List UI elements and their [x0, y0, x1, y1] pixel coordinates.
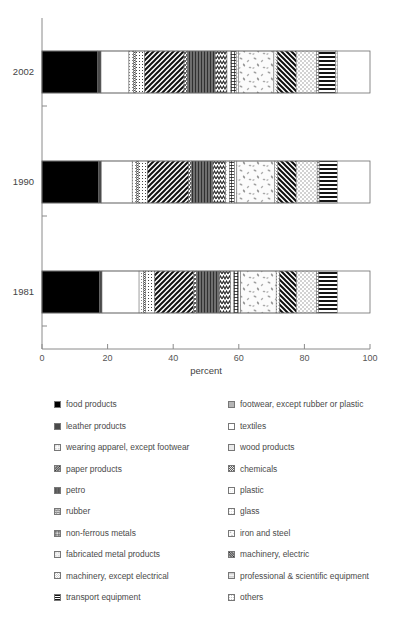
legend-label: chemicals	[240, 465, 277, 473]
bar-segment-transport	[319, 51, 336, 93]
legend-label: wood products	[240, 443, 294, 451]
legend-swatch-machelec-icon	[228, 551, 235, 558]
legend-item-wood[interactable]: wood products	[228, 437, 404, 458]
bar-segment-glass	[236, 51, 238, 93]
legend-swatch-ironsteel-icon	[228, 530, 235, 537]
year-label-2002: 2002	[13, 66, 34, 77]
legend-swatch-prof-icon	[228, 572, 235, 579]
legend-label: transport equipment	[66, 593, 141, 601]
bar-segment-apparel	[139, 271, 143, 313]
chart-svg: 020406080100 200219901981 percent	[0, 0, 404, 380]
x-tick-label: 0	[39, 353, 44, 363]
bar-segment-nonferrous	[229, 161, 234, 203]
bar-segment-plastic	[227, 51, 231, 93]
bar-segment-ironsteel	[241, 271, 276, 313]
x-tick-label: 20	[103, 353, 113, 363]
legend-item-transport[interactable]: transport equipment	[54, 587, 224, 608]
bar-segment-textiles	[102, 271, 139, 313]
legend-item-plastic[interactable]: plastic	[228, 480, 404, 501]
legend-item-others[interactable]: others	[228, 587, 404, 608]
bar-segment-leather	[98, 51, 101, 93]
legend-label: food products	[66, 400, 117, 408]
legend-label: paper products	[66, 465, 122, 473]
legend-swatch-wood-icon	[228, 444, 235, 451]
chart-legend: food productsfootwear, except rubber or …	[0, 386, 404, 618]
bar-segment-paper	[148, 161, 189, 203]
bar-segment-leather	[99, 161, 102, 203]
legend-label: machinery, except electrical	[66, 572, 169, 580]
bar-segment-petro	[196, 271, 219, 313]
bar-group	[42, 51, 370, 313]
legend-item-leather[interactable]: leather products	[54, 415, 224, 436]
bar-segment-fabmetal	[274, 51, 277, 93]
chart-page: 020406080100 200219901981 percent food p…	[0, 0, 404, 618]
legend-label: plastic	[240, 486, 264, 494]
legend-item-prof[interactable]: professional & scientific equipment	[228, 565, 404, 586]
legend-item-footwear[interactable]: footwear, except rubber or plastic	[228, 394, 404, 415]
legend-swatch-leather-icon	[54, 423, 61, 430]
bar-segment-textiles	[101, 51, 129, 93]
bar-segment-ironsteel	[238, 51, 273, 93]
legend-label: leather products	[66, 422, 126, 430]
bar-segment-apparel	[129, 51, 134, 93]
legend-swatch-plastic-icon	[228, 487, 235, 494]
bar-segment-glass	[235, 161, 237, 203]
legend-item-petro[interactable]: petro	[54, 480, 224, 501]
legend-swatch-chemicals-icon	[228, 465, 235, 472]
legend-item-glass[interactable]: glass	[228, 501, 404, 522]
bar-segment-paper	[155, 271, 194, 313]
legend-label: iron and steel	[240, 529, 290, 537]
legend-swatch-nonferrous-icon	[54, 530, 61, 537]
bar-segment-fabmetal	[275, 161, 278, 203]
bar-segment-food	[42, 271, 99, 313]
bar-segment-machelec	[279, 271, 296, 313]
bar-segment-rubber	[215, 51, 227, 93]
legend-item-food[interactable]: food products	[54, 394, 224, 415]
legend-label: machinery, electric	[240, 550, 309, 558]
bar-segment-machexcept	[296, 161, 317, 203]
legend-label: fabricated metal products	[66, 550, 160, 558]
stacked-bar-chart: 020406080100 200219901981 percent	[0, 0, 404, 380]
bar-segment-textiles	[101, 161, 132, 203]
bar-segment-rubber	[219, 271, 230, 313]
legend-label: footwear, except rubber or plastic	[240, 400, 363, 408]
x-tick-label: 60	[234, 353, 244, 363]
bar-segment-nonferrous	[234, 271, 239, 313]
bar-segment-transport	[319, 271, 338, 313]
bar-segment-machexcept	[296, 51, 316, 93]
legend-item-ironsteel[interactable]: iron and steel	[228, 522, 404, 543]
bar-segment-nonferrous	[231, 51, 236, 93]
bar-segment-paper	[145, 51, 184, 93]
legend-item-textiles[interactable]: textiles	[228, 415, 404, 436]
legend-label: rubber	[66, 507, 90, 515]
legend-item-rubber[interactable]: rubber	[54, 501, 224, 522]
legend-swatch-petro-icon	[54, 487, 61, 494]
legend-item-machelec[interactable]: machinery, electric	[228, 544, 404, 565]
legend-item-nonferrous[interactable]: non-ferrous metals	[54, 522, 224, 543]
bar-segment-machexcept	[297, 271, 317, 313]
bar-segment-wood	[135, 51, 144, 93]
legend-swatch-textiles-icon	[228, 423, 235, 430]
bar-segment-chemicals	[189, 161, 192, 203]
legend-label: petro	[66, 486, 85, 494]
legend-label: non-ferrous metals	[66, 529, 136, 537]
legend-swatch-apparel-icon	[54, 444, 61, 451]
bar-segment-rubber	[213, 161, 226, 203]
x-axis-title: percent	[190, 365, 222, 376]
legend-item-paper[interactable]: paper products	[54, 458, 224, 479]
x-tick-label: 80	[299, 353, 309, 363]
legend-swatch-rubber-icon	[54, 508, 61, 515]
legend-item-chemicals[interactable]: chemicals	[228, 458, 404, 479]
legend-item-fabmetal[interactable]: fabricated metal products	[54, 544, 224, 565]
bar-segment-transport	[319, 161, 337, 203]
bar-segment-machelec	[277, 51, 296, 93]
bar-segment-ironsteel	[237, 161, 275, 203]
bar-segment-footwear	[134, 51, 136, 93]
legend-swatch-food-icon	[54, 401, 61, 408]
bar-segment-food	[42, 161, 99, 203]
legend-item-machexcept[interactable]: machinery, except electrical	[54, 565, 224, 586]
legend-swatch-transport-icon	[54, 594, 61, 601]
bar-segment-wood	[138, 161, 147, 203]
legend-item-apparel[interactable]: wearing apparel, except footwear	[54, 437, 224, 458]
bar-segment-footwear	[143, 271, 145, 313]
